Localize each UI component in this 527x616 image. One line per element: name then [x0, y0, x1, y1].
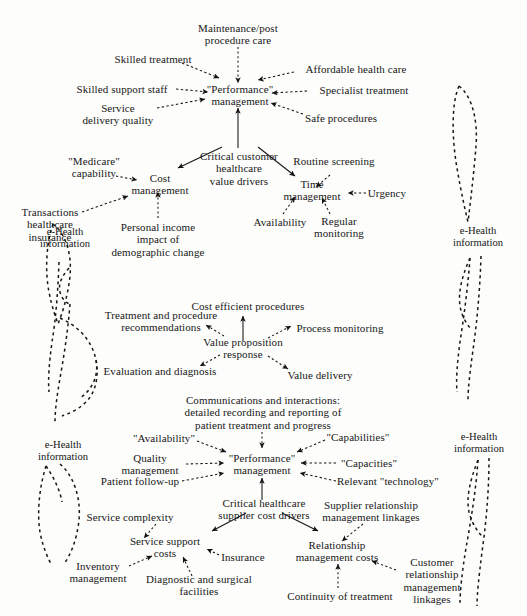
node-capacities: "Capacities": [341, 457, 397, 469]
hub-value-proposition-response: Value proposition response: [203, 336, 283, 361]
node-specialist-treatment: Specialist treatment: [319, 84, 408, 96]
node-regular-monitoring: Regular monitoring: [314, 215, 364, 240]
ehealth-information-label-left-lower: e-Health information: [38, 439, 88, 464]
node-value-delivery: Value delivery: [287, 369, 352, 381]
node-quality-management: Quality management: [121, 452, 178, 477]
node-personal-income-impact-demographic-change: Personal income impact of demographic ch…: [111, 221, 204, 258]
node-service-delivery-quality: Service delivery quality: [83, 102, 154, 127]
node-skilled-treatment: Skilled treatment: [114, 53, 191, 65]
node-service-complexity: Service complexity: [86, 511, 173, 523]
diagram-canvas: Maintenance/post procedure care Skilled …: [0, 0, 527, 616]
node-patient-follow-up: Patient follow-up: [101, 475, 179, 487]
hub-relationship-management-costs: Relationship management costs: [296, 539, 379, 564]
node-maintenance-post-procedure-care: Maintenance/post procedure care: [198, 22, 278, 47]
ehealth-information-label-right-upper: e-Health information: [453, 225, 503, 250]
node-capabilities: "Capabilities": [327, 431, 390, 443]
node-supplier-relationship-management-linkages: Supplier relationship management linkage…: [322, 499, 420, 524]
hub-service-support-costs: Service support costs: [130, 535, 200, 560]
node-treatment-procedure-recommendations: Treatment and procedure recommendations: [105, 309, 217, 334]
hub-performance-management-customer: "Performance" management: [207, 83, 273, 108]
node-communications-and-interactions: Communications and interactions: detaile…: [185, 394, 342, 431]
node-evaluation-and-diagnosis: Evaluation and diagnosis: [104, 365, 217, 377]
ehealth-information-label-left-upper: e-Health information: [40, 226, 90, 251]
hub-performance-management-supplier: "Performance" management: [229, 452, 295, 477]
node-customer-relationship-management-linkages: Customer relationship management linkage…: [403, 556, 460, 605]
node-critical-healthcare-supplier-cost-drivers: Critical healthcare supplier cost driver…: [218, 497, 309, 522]
node-routine-screening: Routine screening: [293, 155, 374, 167]
node-availability: Availability: [254, 216, 307, 228]
node-process-monitoring: Process monitoring: [296, 322, 383, 334]
node-inventory-management: Inventory management: [69, 560, 126, 585]
node-continuity-of-treatment: Continuity of treatment: [287, 590, 393, 602]
hub-time-management: Time management: [283, 178, 340, 203]
node-critical-customer-healthcare-value-drivers: Critical customer healthcare value drive…: [200, 150, 278, 187]
node-relevant-technology: Relevant "technology": [337, 475, 439, 487]
node-insurance: Insurance: [221, 551, 265, 563]
node-medicare-capability: "Medicare" capability: [68, 155, 120, 180]
node-safe-procedures: Safe procedures: [305, 112, 377, 124]
hub-cost-management: Cost management: [131, 172, 188, 197]
node-urgency: Urgency: [368, 187, 406, 199]
node-availability-quoted: "Availability": [133, 432, 195, 444]
node-skilled-support-staff: Skilled support staff: [76, 83, 167, 95]
ehealth-information-label-right-lower: e-Health information: [454, 431, 504, 456]
node-affordable-health-care: Affordable health care: [306, 63, 407, 75]
node-diagnostic-and-surgical-facilities: Diagnostic and surgical facilities: [146, 573, 252, 598]
